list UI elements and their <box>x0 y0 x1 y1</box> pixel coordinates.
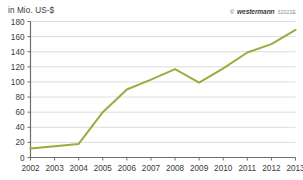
x-axis-tick-labels: 2002200320042005200620072008200920102011… <box>21 164 303 173</box>
x-axis-tick-label: 2012 <box>262 164 281 173</box>
line-chart-plot: 020406080100120140160180 200220032004200… <box>0 0 303 180</box>
data-series-line <box>31 30 296 149</box>
y-axis-tick-label: 80 <box>15 93 25 102</box>
y-axis-tick-label: 160 <box>11 33 25 42</box>
x-axis-tick-label: 2011 <box>239 164 257 173</box>
y-axis-tick-label: 180 <box>11 18 25 27</box>
y-axis-tick-label: 100 <box>11 78 25 87</box>
x-axis-tick-label: 2002 <box>21 164 40 173</box>
x-axis-tick-label: 2013 <box>286 164 303 173</box>
x-axis-tick-label: 2005 <box>94 164 113 173</box>
x-axis-tick-label: 2010 <box>214 164 233 173</box>
y-axis-tick-label: 0 <box>20 154 25 163</box>
y-axis-tick-label: 140 <box>11 48 25 57</box>
y-axis-tick-label: 120 <box>11 63 25 72</box>
y-axis-tick-label: 40 <box>15 123 25 132</box>
x-axis-tick-label: 2009 <box>190 164 209 173</box>
y-axis-tick-labels: 020406080100120140160180 <box>11 18 25 163</box>
x-axis-tick-label: 2008 <box>166 164 185 173</box>
chart-figure: in Mio. US-$ © westermann 32022E 0204060… <box>0 0 303 180</box>
x-axis-tick-label: 2006 <box>118 164 137 173</box>
x-axis-tick-label: 2003 <box>45 164 64 173</box>
x-axis-tick-label: 2004 <box>70 164 89 173</box>
y-axis-tick-label: 20 <box>15 138 25 147</box>
grid-lines <box>31 22 296 143</box>
x-axis-tick-label: 2007 <box>142 164 161 173</box>
y-axis-tick-label: 60 <box>15 108 25 117</box>
